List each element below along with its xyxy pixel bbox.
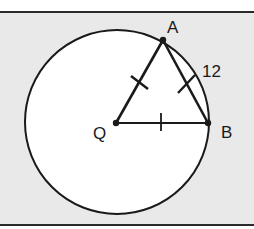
label-b: B: [221, 123, 232, 142]
label-ab-length: 12: [202, 62, 221, 81]
label-q: Q: [93, 124, 106, 143]
point-q: [113, 120, 119, 126]
diagram-canvas: A Q B 12: [0, 0, 254, 229]
label-a: A: [167, 18, 179, 37]
geometry-figure: A Q B 12: [0, 0, 254, 229]
point-a: [160, 37, 166, 43]
point-b: [205, 120, 211, 126]
